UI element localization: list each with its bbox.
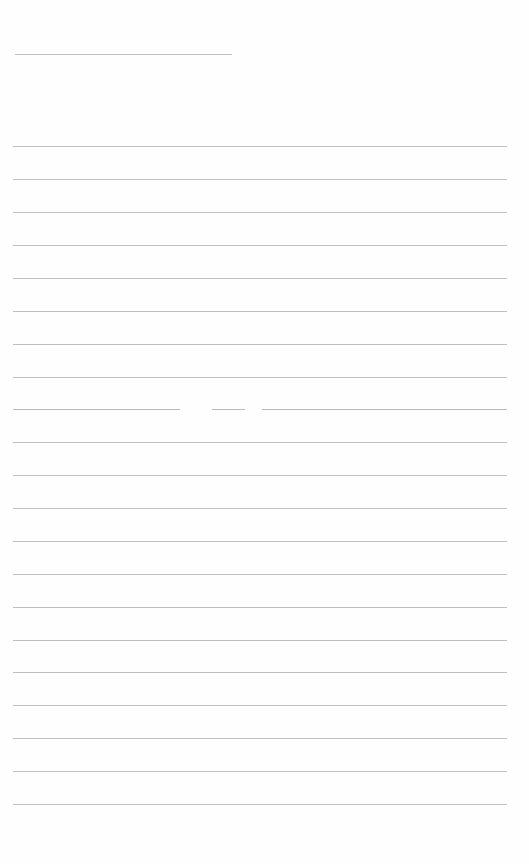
- ruled-line: [13, 541, 507, 542]
- ruled-line: [13, 146, 507, 147]
- ruled-line: [13, 738, 507, 739]
- ruled-line: [13, 278, 507, 279]
- ruled-line: [13, 212, 507, 213]
- title-line: [15, 54, 232, 55]
- ruled-line-segment: [13, 409, 180, 410]
- ruled-line: [13, 442, 507, 443]
- ruled-line: [13, 475, 507, 476]
- ruled-line: [13, 344, 507, 345]
- ruled-line: [13, 640, 507, 641]
- ruled-line: [13, 771, 507, 772]
- ruled-line: [13, 508, 507, 509]
- ruled-line: [13, 804, 507, 805]
- ruled-line: [13, 607, 507, 608]
- ruled-line: [13, 311, 507, 312]
- ruled-line-segment: [262, 409, 507, 410]
- ruled-line: [13, 377, 507, 378]
- ruled-line-segment: [212, 409, 245, 410]
- ruled-line: [13, 245, 507, 246]
- ruled-line: [13, 672, 507, 673]
- lined-page: [0, 0, 529, 864]
- ruled-line: [13, 179, 507, 180]
- ruled-line: [13, 574, 507, 575]
- ruled-line: [13, 705, 507, 706]
